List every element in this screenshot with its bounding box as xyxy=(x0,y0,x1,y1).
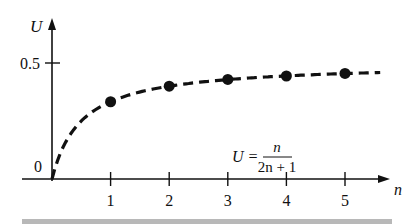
data-point xyxy=(340,68,351,79)
x-tick-label: 2 xyxy=(165,192,173,209)
formula-numerator: n xyxy=(273,139,281,155)
x-tick-label: 3 xyxy=(224,192,232,209)
x-axis-arrow-icon xyxy=(378,175,390,183)
x-axis-label: n xyxy=(394,181,402,198)
y-tick-label-0: 0 xyxy=(34,158,42,175)
x-tick-label: 4 xyxy=(282,192,290,209)
data-point xyxy=(222,74,233,85)
y-axis-arrow-icon xyxy=(48,18,56,30)
data-point xyxy=(105,96,116,107)
data-point xyxy=(164,81,175,92)
x-tick-label: 1 xyxy=(107,192,115,209)
y-tick-label-0.5: 0.5 xyxy=(20,55,40,72)
dashed-curve xyxy=(52,73,380,180)
formula-annotation: U = n 2n + 1 xyxy=(232,139,296,175)
chart: 123450.50Un U = n 2n + 1 xyxy=(0,0,413,224)
data-point xyxy=(281,70,292,81)
y-axis-label: U xyxy=(30,17,44,36)
formula-denominator: 2n + 1 xyxy=(258,159,296,175)
x-tick-label: 5 xyxy=(341,192,349,209)
formula-lhs: U = xyxy=(232,148,258,165)
footer-bar xyxy=(22,219,392,224)
